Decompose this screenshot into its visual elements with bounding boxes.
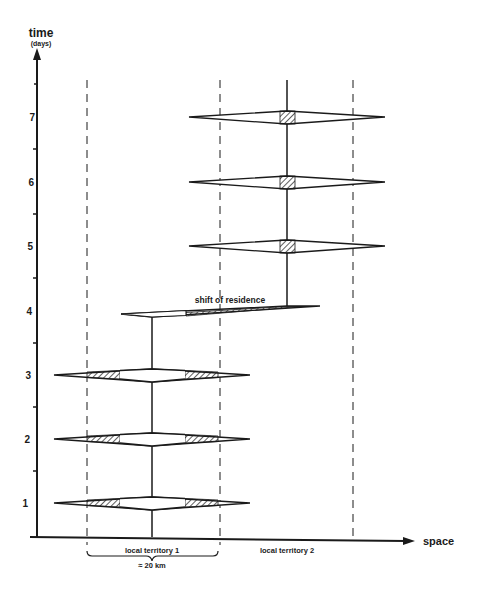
day-5-range [189, 240, 385, 253]
day-3-range [54, 369, 250, 382]
day-label-2: 2 [24, 434, 30, 445]
territory-1-label: local territory 1 [125, 546, 179, 555]
y-axis-label: time [29, 26, 54, 40]
y-axis-arrow-icon [33, 48, 41, 60]
day-6-range [189, 176, 385, 189]
x-axis-label: space [423, 535, 454, 547]
day-7-range [189, 111, 385, 124]
day-label-4: 4 [26, 306, 32, 317]
day-label-3: 3 [25, 370, 31, 381]
day-label-7: 7 [29, 112, 35, 123]
x-axis-arrow-icon [403, 537, 415, 545]
day-tick-labels: 1 2 3 4 5 6 7 [22, 112, 35, 509]
scale-label: ≈ 20 km [138, 561, 166, 570]
x-axis [30, 537, 415, 545]
day-2-range [54, 433, 250, 446]
day-label-1: 1 [22, 498, 28, 509]
day-label-5: 5 [27, 241, 33, 252]
time-space-diagram: shift of residence time (days) 1 2 3 4 [0, 0, 477, 591]
day-1-range [54, 497, 250, 510]
day-label-6: 6 [28, 177, 34, 188]
shift-of-residence-label: shift of residence [195, 295, 266, 305]
y-axis-unit: (days) [31, 40, 52, 48]
territory-2-label: local territory 2 [260, 546, 314, 555]
